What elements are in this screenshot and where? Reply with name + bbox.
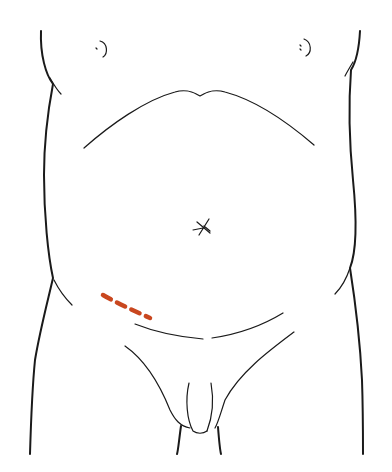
right-hip-crease [335, 268, 350, 294]
torso-drawing [0, 0, 392, 472]
right-nipple [304, 39, 310, 56]
left-inguinal-fold [125, 346, 190, 428]
left-inner-thigh [177, 426, 181, 454]
right-inguinal-fold [215, 332, 294, 428]
left-nipple-dot [96, 48, 97, 49]
umbilicus [193, 219, 210, 235]
lower-abdomen-right [212, 313, 283, 338]
torso-illustration: Line drawing of a torso with dashed inci… [0, 0, 392, 472]
right-nipple-dot [300, 45, 301, 50]
right-inner-thigh [218, 427, 221, 454]
left-flank-outline [30, 31, 53, 454]
left-hip-crease [54, 280, 72, 305]
genital-left [187, 383, 207, 433]
genital-right [207, 383, 212, 431]
left-nipple [100, 41, 106, 57]
incision-line [103, 295, 150, 318]
costal-margin [84, 91, 314, 148]
right-flank-outline [350, 31, 363, 454]
lower-abdomen-left [135, 324, 203, 339]
